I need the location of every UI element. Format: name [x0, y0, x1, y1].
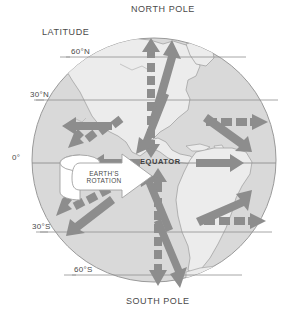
rotation-label-line2: ROTATION: [76, 177, 132, 184]
figure-canvas: NORTH POLE SOUTH POLE LATITUDE 60°N 30°N…: [0, 0, 308, 316]
lat-label-60s: 60°S: [74, 266, 93, 274]
rotation-label-line1: EARTH'S: [76, 170, 132, 177]
equator-label: EQUATOR: [140, 158, 181, 166]
lat-label-30s: 30°S: [32, 223, 51, 231]
lat-label-60n: 60°N: [71, 48, 90, 56]
landmass-europe-limb: [248, 48, 274, 66]
rotation-label: EARTH'S ROTATION: [76, 170, 132, 184]
lat-label-30n: 30°N: [30, 91, 49, 99]
latitude-caption: LATITUDE: [42, 28, 89, 37]
page-title-north-pole: NORTH POLE: [131, 5, 195, 14]
page-title-south-pole: SOUTH POLE: [126, 297, 190, 306]
lat-label-0: 0°: [12, 154, 20, 162]
